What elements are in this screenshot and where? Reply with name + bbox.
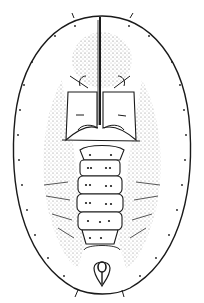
bristle-bottom-left xyxy=(75,290,78,297)
abdominal-segments xyxy=(77,146,124,245)
stipple-head xyxy=(72,32,132,88)
illustration-canvas xyxy=(0,0,204,303)
bristle-left xyxy=(72,13,74,18)
scale-insect-drawing xyxy=(0,0,204,303)
bristle-right xyxy=(130,13,133,18)
